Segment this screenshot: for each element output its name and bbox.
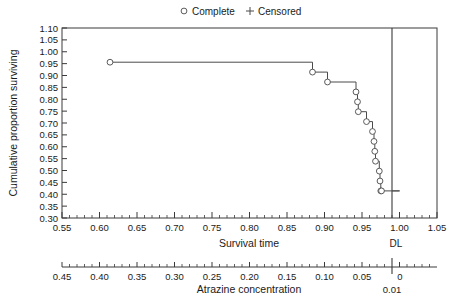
y-ticklabel: 0.65	[40, 129, 59, 140]
survival-step-curve	[107, 59, 400, 194]
chart-svg: Complete Censored	[0, 0, 456, 304]
x-axis-bottom-title: Atrazine concentration	[197, 283, 302, 295]
data-point-complete	[371, 139, 377, 145]
y-ticklabel: 0.45	[40, 177, 59, 188]
legend-label-complete: Complete	[192, 6, 235, 17]
x-top-ticklabel: 0.75	[203, 222, 222, 233]
y-ticklabel: 0.40	[40, 189, 59, 200]
y-ticklabel: 0.80	[40, 94, 59, 105]
x-bottom-ticklabel: 0.10	[315, 271, 334, 282]
data-point-complete	[373, 158, 379, 164]
data-point-complete	[370, 129, 376, 135]
x-bottom-ticklabel: 0.30	[165, 271, 184, 282]
y-ticklabel: 1.10	[40, 23, 59, 34]
data-point-complete	[310, 69, 316, 75]
y-ticklabel: 0.75	[40, 106, 59, 117]
x-top-ticklabel: 0.55	[53, 222, 72, 233]
x-axis-top-ticks	[62, 212, 437, 218]
data-point-complete	[377, 178, 383, 184]
y-axis-ticks	[62, 28, 67, 218]
x-bottom-ticklabel: 0.25	[203, 271, 222, 282]
x-axis-bottom-ticklabels: 0.45 0.40 0.35 0.30 0.25 0.20 0.15 0.10 …	[53, 271, 403, 282]
legend-label-censored: Censored	[258, 6, 301, 17]
y-ticklabel: 1.00	[40, 46, 59, 57]
x-top-ticklabel: 0.70	[165, 222, 184, 233]
x-axis-top-title: Survival time	[219, 237, 279, 249]
x-bottom-ticklabel: 0.40	[90, 271, 109, 282]
y-ticklabel: 0.85	[40, 82, 59, 93]
detection-limit-value: 0.01	[383, 284, 402, 295]
data-point-complete	[355, 109, 361, 115]
y-ticklabel: 0.60	[40, 141, 59, 152]
x-top-ticklabel: 0.80	[240, 222, 259, 233]
plus-icon	[246, 7, 254, 15]
x-bottom-ticklabel-zero: 0	[397, 271, 402, 282]
data-point-complete	[355, 99, 361, 105]
detection-limit-label: DL	[390, 238, 403, 249]
legend: Complete Censored	[181, 6, 301, 17]
x-axis-top-ticklabels: 0.55 0.60 0.65 0.70 0.75 0.80 0.85 0.90 …	[53, 222, 447, 233]
x-top-ticklabel: 0.60	[90, 222, 109, 233]
x-bottom-ticklabel: 0.35	[128, 271, 147, 282]
x-top-ticklabel: 1.05	[428, 222, 447, 233]
y-ticklabel: 0.90	[40, 70, 59, 81]
y-ticklabel: 0.70	[40, 118, 59, 129]
step-path	[110, 62, 399, 191]
survival-plot-figure: Complete Censored	[0, 0, 456, 304]
circle-open-icon	[181, 8, 187, 14]
x-top-ticklabel: 0.90	[315, 222, 334, 233]
x-bottom-ticklabel: 0.45	[53, 271, 72, 282]
x-top-ticklabel: 1.00	[390, 222, 409, 233]
x-top-ticklabel: 0.65	[128, 222, 147, 233]
y-ticklabel: 1.05	[40, 34, 59, 45]
x-bottom-ticklabel: 0.15	[278, 271, 297, 282]
x-bottom-ticklabel: 0.05	[353, 271, 372, 282]
x-top-ticklabel: 0.85	[278, 222, 297, 233]
data-point-complete	[325, 79, 331, 85]
y-ticklabel: 0.95	[40, 58, 59, 69]
data-point-complete	[379, 188, 385, 194]
y-axis-ticklabels: 1.10 1.05 1.00 0.95 0.90 0.85 0.80 0.75 …	[40, 23, 59, 224]
x-bottom-ticklabel: 0.20	[240, 271, 259, 282]
x-top-ticklabel: 0.95	[353, 222, 372, 233]
data-point-complete	[107, 59, 113, 65]
y-ticklabel: 0.35	[40, 201, 59, 212]
data-point-complete	[372, 148, 378, 154]
y-axis-title: Cumulative proportion surviving	[7, 49, 19, 196]
y-ticklabel: 0.55	[40, 153, 59, 164]
data-point-complete	[353, 89, 359, 95]
data-point-complete	[376, 168, 382, 174]
y-ticklabel: 0.50	[40, 165, 59, 176]
data-point-complete	[364, 119, 370, 125]
